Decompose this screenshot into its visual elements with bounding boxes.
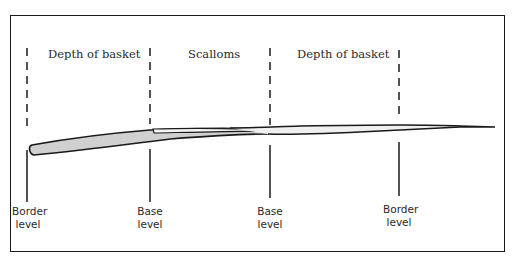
- region-label-depth-left: Depth of basket: [48, 48, 140, 61]
- rod-thick-section: [30, 129, 272, 156]
- level-label-base-left: Base level: [134, 205, 166, 231]
- level-line1: Base: [254, 205, 286, 218]
- region-label-scalloms: Scalloms: [188, 48, 240, 61]
- level-line2: level: [254, 218, 286, 231]
- rod-thin-section: [230, 125, 495, 134]
- level-label-base-right: Base level: [254, 205, 286, 231]
- level-label-border-right: Border level: [383, 203, 415, 229]
- level-line1: Base: [134, 205, 166, 218]
- level-line1: Border: [383, 203, 415, 216]
- level-line2: level: [134, 218, 166, 231]
- level-line2: level: [383, 216, 415, 229]
- level-line1: Border: [12, 205, 44, 218]
- level-line2: level: [12, 218, 44, 231]
- region-label-depth-right: Depth of basket: [297, 48, 389, 61]
- lower-level-lines: [27, 142, 399, 202]
- level-label-border-left: Border level: [12, 205, 44, 231]
